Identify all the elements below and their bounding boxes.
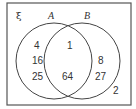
venn-diagram: ξ A B 4 16 25 1 64 8 27 2: [0, 0, 136, 109]
outside-value: 2: [113, 85, 119, 96]
set-a-label: A: [47, 10, 55, 21]
intersection-value: 64: [62, 71, 74, 82]
set-b-label: B: [84, 10, 90, 21]
universal-set-symbol: ξ: [16, 10, 22, 21]
b-only-value: 27: [95, 71, 107, 82]
a-only-value: 25: [32, 71, 44, 82]
b-only-value: 8: [98, 55, 104, 66]
a-only-value: 4: [34, 40, 40, 51]
intersection-value: 1: [67, 40, 73, 51]
a-only-value: 16: [32, 55, 44, 66]
